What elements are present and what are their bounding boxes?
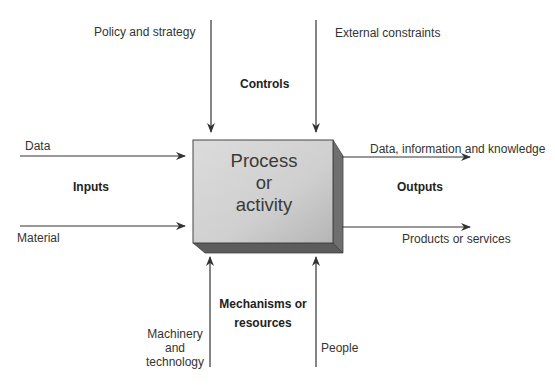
label-data-input: Data — [25, 139, 50, 153]
label-people: People — [321, 341, 358, 355]
process-label: Process or activity — [193, 150, 335, 216]
label-material-input: Material — [17, 231, 60, 245]
process-line-1: Process — [193, 150, 335, 172]
process-line-2: or — [193, 172, 335, 194]
label-products-output: Products or services — [402, 232, 511, 246]
heading-outputs: Outputs — [397, 180, 443, 194]
label-machinery-line-1: Machinery — [145, 327, 205, 341]
label-external-constraints: External constraints — [335, 26, 440, 40]
heading-controls: Controls — [240, 77, 289, 91]
process-line-3: activity — [193, 194, 335, 216]
label-policy-and-strategy: Policy and strategy — [94, 25, 195, 39]
heading-mechanisms: Mechanisms or resources — [218, 295, 308, 333]
label-machinery-line-3: technology — [145, 355, 205, 369]
heading-mechanisms-line-1: Mechanisms or — [218, 295, 308, 314]
label-machinery: Machinery and technology — [145, 327, 205, 369]
label-machinery-line-2: and — [145, 341, 205, 355]
box-bottom-face — [193, 243, 343, 253]
heading-mechanisms-line-2: resources — [218, 314, 308, 333]
label-data-output: Data, information and knowledge — [370, 142, 545, 156]
heading-inputs: Inputs — [73, 180, 109, 194]
